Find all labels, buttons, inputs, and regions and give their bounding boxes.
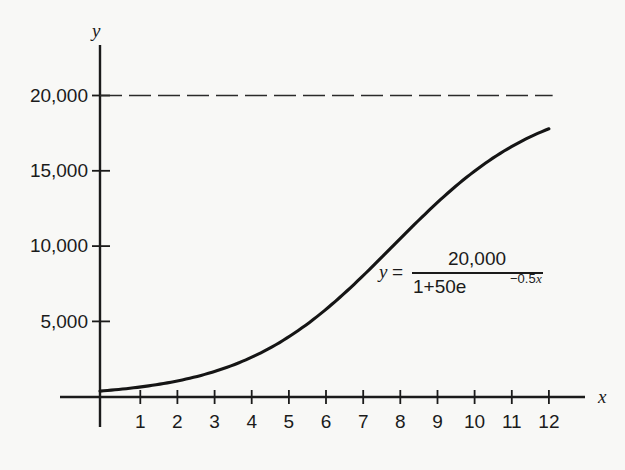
x-tick-label-5: 5 [284, 411, 295, 432]
x-tick-label-12: 12 [538, 411, 559, 432]
x-tick-label-4: 4 [246, 411, 257, 432]
y-tick-label-5000: 5,000 [40, 311, 88, 332]
equation-denominator: 1+50e [413, 276, 466, 297]
equation-exponent-variable: x [535, 271, 542, 286]
x-tick-label-3: 3 [209, 411, 220, 432]
equation-lhs-variable: y [377, 261, 388, 282]
equation-annotation: y = 20,000 1+50e −0.5 x [377, 248, 543, 297]
y-tick-label-10000: 10,000 [30, 235, 88, 256]
x-tick-label-1: 1 [135, 411, 146, 432]
equation-exponent-number: −0.5 [510, 271, 536, 286]
x-tick-label-11: 11 [502, 411, 522, 432]
x-tick-label-6: 6 [321, 411, 332, 432]
equation-equals-sign: = [392, 261, 403, 282]
logistic-growth-figure: y x 20,000 15,000 10,000 5,000 1 2 3 4 5… [0, 0, 625, 470]
y-tick-label-20000: 20,000 [30, 85, 88, 106]
x-tick-label-10: 10 [464, 411, 485, 432]
y-axis-label: y [90, 20, 101, 41]
x-tick-label-2: 2 [172, 411, 183, 432]
x-axis-label: x [597, 386, 607, 407]
y-tick-label-15000: 15,000 [30, 160, 88, 181]
x-tick-label-7: 7 [358, 411, 369, 432]
x-tick-label-9: 9 [432, 411, 443, 432]
equation-numerator: 20,000 [448, 248, 506, 269]
plot-area: y x 20,000 15,000 10,000 5,000 1 2 3 4 5… [0, 0, 625, 470]
x-tick-label-8: 8 [395, 411, 406, 432]
